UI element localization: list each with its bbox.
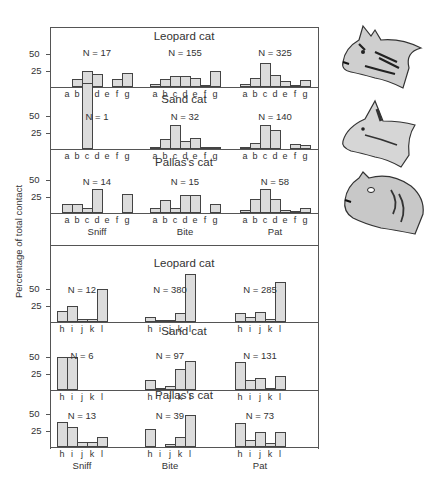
row-title: Sand cat <box>50 325 318 337</box>
bar-a <box>150 147 161 149</box>
bar-f <box>200 147 211 149</box>
x-category-label: j <box>77 449 87 459</box>
x-category-label: c <box>170 215 180 225</box>
y-tick <box>46 54 50 55</box>
behavior-label: Sniff <box>77 226 117 237</box>
y-tick-label: 25 <box>31 368 42 379</box>
behavior-label: Bite <box>150 460 190 471</box>
bar-g <box>300 145 311 149</box>
bar-e <box>190 78 201 87</box>
bar-b <box>72 204 83 213</box>
bar-a <box>150 84 161 87</box>
y-tick-label: 25 <box>31 300 42 311</box>
bar-e <box>190 138 201 149</box>
bar-b <box>250 199 261 213</box>
y-tick <box>46 133 50 134</box>
bar-e <box>190 195 201 213</box>
x-category-label: l <box>275 449 285 459</box>
bar-g <box>300 208 311 213</box>
n-count-label: N = 13 <box>60 410 104 421</box>
behavior-label: Sniff <box>62 460 102 471</box>
x-category-label: g <box>122 215 132 225</box>
baseline <box>50 149 318 150</box>
bar-l <box>275 376 286 390</box>
n-count-label: N = 285 <box>238 284 282 295</box>
x-category-label: i <box>245 449 255 459</box>
n-count-label: N = 97 <box>148 350 192 361</box>
bar-d <box>92 189 103 213</box>
bar-d <box>270 75 281 87</box>
bar-d <box>180 195 191 213</box>
y-tick-label: 25 <box>31 425 42 436</box>
bar-i <box>67 357 78 390</box>
bar-d <box>180 76 191 87</box>
x-category-label: g <box>300 215 310 225</box>
row-title: Leopard cat <box>50 257 318 269</box>
y-tick-label: 25 <box>31 65 42 76</box>
bar-a <box>240 147 251 149</box>
y-tick <box>46 357 50 358</box>
bar-c <box>82 208 93 213</box>
bar-d <box>270 199 281 213</box>
x-category-label: j <box>255 449 265 459</box>
x-category-label: k <box>87 449 97 459</box>
n-count-label: N = 15 <box>163 176 207 187</box>
n-count-label: N = 1 <box>75 111 119 122</box>
n-count-label: N = 73 <box>238 410 282 421</box>
y-tick <box>46 431 50 432</box>
x-category-label: i <box>67 449 77 459</box>
x-category-label: b <box>160 215 170 225</box>
bar-b <box>250 78 261 87</box>
x-category-label: i <box>155 449 165 459</box>
n-count-label: N = 6 <box>60 350 104 361</box>
bar-b <box>160 139 171 149</box>
bar-f <box>290 211 301 213</box>
y-tick <box>46 289 50 290</box>
x-category-label: e <box>190 215 200 225</box>
x-category-label: f <box>200 215 210 225</box>
baseline <box>50 447 318 448</box>
bar-a <box>150 208 161 213</box>
bar-b <box>160 200 171 213</box>
x-category-label: j <box>165 449 175 459</box>
y-tick-label: 25 <box>31 191 42 202</box>
x-category-label: d <box>92 215 102 225</box>
x-category-label: e <box>280 215 290 225</box>
pallas-cat-illustration-icon <box>335 168 435 240</box>
bar-c <box>260 125 271 149</box>
bar-l <box>185 361 196 390</box>
y-tick <box>46 71 50 72</box>
n-count-label: N = 131 <box>238 350 282 361</box>
x-category-label: a <box>62 215 72 225</box>
y-tick <box>46 414 50 415</box>
bar-g <box>210 147 221 149</box>
n-count-label: N = 155 <box>163 47 207 58</box>
n-count-label: N = 32 <box>163 111 207 122</box>
bar-b <box>250 143 261 149</box>
x-category-label: b <box>72 215 82 225</box>
x-category-label: a <box>150 215 160 225</box>
bar-f <box>290 85 301 87</box>
x-category-label: h <box>145 449 155 459</box>
y-tick-label: 25 <box>31 127 42 138</box>
n-count-label: N = 325 <box>253 47 297 58</box>
bar-g <box>122 194 133 213</box>
y-tick-label: 50 <box>29 174 40 185</box>
bar-c <box>170 76 181 87</box>
x-category-label: h <box>235 449 245 459</box>
y-tick <box>46 116 50 117</box>
bar-a <box>62 204 73 213</box>
x-category-label: a <box>240 215 250 225</box>
bar-l <box>185 274 196 322</box>
y-tick <box>46 374 50 375</box>
bar-c <box>170 208 181 213</box>
leopard-cat-illustration-icon <box>335 22 435 94</box>
y-tick-label: 50 <box>29 351 40 362</box>
y-tick-label: 50 <box>29 408 40 419</box>
behavior-label: Pat <box>240 460 280 471</box>
x-category-label: b <box>250 215 260 225</box>
n-count-label: N = 12 <box>60 284 104 295</box>
bar-g <box>300 80 311 87</box>
bar-h <box>145 429 156 447</box>
bar-d <box>180 141 191 149</box>
